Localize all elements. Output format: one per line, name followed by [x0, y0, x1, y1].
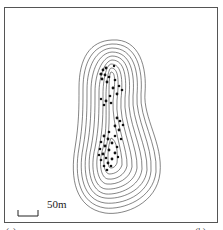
scale-bar: 50m: [17, 204, 41, 222]
contour-lines: [73, 40, 160, 214]
event-points: [98, 65, 124, 172]
figure-caption: (a) … (b) …: [0, 226, 223, 230]
scale-label: 50m: [47, 198, 67, 210]
scale-bar-icon: [17, 210, 41, 218]
map-frame: 50m: [4, 7, 218, 223]
caption-left: (a) …: [6, 226, 27, 230]
density-contour-map: [5, 8, 219, 224]
caption-right: (b) …: [195, 226, 217, 230]
